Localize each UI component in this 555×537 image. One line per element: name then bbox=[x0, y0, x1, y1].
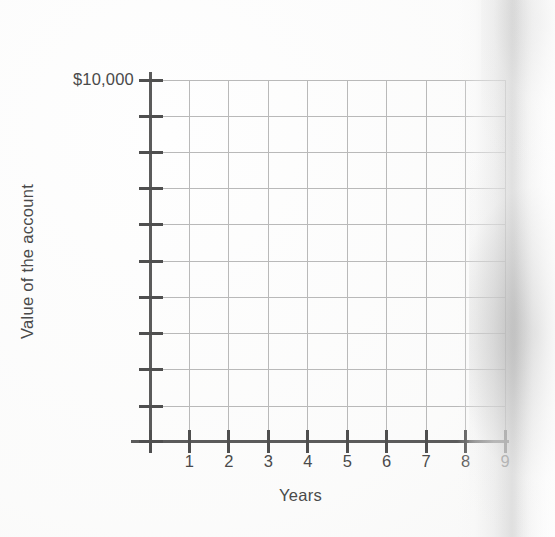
y-axis-tick bbox=[139, 296, 163, 299]
y-axis-baseline-tick bbox=[139, 440, 163, 443]
plot-grid-area bbox=[150, 80, 505, 441]
gridline-horizontal bbox=[150, 406, 505, 407]
x-axis-tick-label: 1 bbox=[177, 452, 201, 471]
x-axis-title: Years bbox=[0, 486, 555, 505]
x-axis-tick bbox=[306, 430, 309, 453]
y-axis-title: Value of the account bbox=[18, 147, 37, 377]
x-axis-tick bbox=[464, 430, 467, 453]
x-axis-tick bbox=[385, 430, 388, 453]
gridline-horizontal bbox=[150, 333, 505, 334]
gridline-horizontal bbox=[150, 261, 505, 262]
y-axis-tick bbox=[139, 260, 163, 263]
x-axis-tick bbox=[346, 430, 349, 453]
gridline-horizontal bbox=[150, 369, 505, 370]
x-axis-tick-label: 8 bbox=[454, 452, 478, 471]
gridline-horizontal bbox=[150, 188, 505, 189]
y-axis-tick bbox=[139, 79, 163, 82]
x-axis-title-text: Years bbox=[233, 486, 322, 504]
y-axis-tick bbox=[139, 223, 163, 226]
x-axis-tick bbox=[188, 430, 191, 453]
y-axis-tick bbox=[139, 368, 163, 371]
x-axis-tick-label: 7 bbox=[414, 452, 438, 471]
y-axis-tick bbox=[139, 115, 163, 118]
x-axis-tick-label: 9 bbox=[493, 452, 517, 471]
x-axis-tick bbox=[267, 430, 270, 453]
x-axis-tick bbox=[227, 430, 230, 453]
x-axis-tick-label: 4 bbox=[296, 452, 320, 471]
x-axis-tick-label: 2 bbox=[217, 452, 241, 471]
x-axis-tick-label: 3 bbox=[256, 452, 280, 471]
x-axis-tick-label: 6 bbox=[375, 452, 399, 471]
y-axis-tick bbox=[139, 405, 163, 408]
gridline-horizontal bbox=[150, 224, 505, 225]
y-axis-tick bbox=[139, 187, 163, 190]
y-axis-tick bbox=[139, 332, 163, 335]
y-axis-tick-label-top: $10,000 bbox=[52, 70, 134, 89]
x-axis-tick bbox=[425, 430, 428, 453]
graph-page: $10,000 123456789 Years Value of the acc… bbox=[0, 0, 555, 537]
gridline-horizontal bbox=[150, 152, 505, 153]
x-axis-tick bbox=[504, 430, 507, 453]
y-axis-tick bbox=[139, 151, 163, 154]
gridline-horizontal bbox=[150, 297, 505, 298]
coordinate-grid-chart: $10,000 123456789 Years Value of the acc… bbox=[0, 0, 555, 537]
gridline-horizontal bbox=[150, 80, 505, 81]
x-axis-tick-label: 5 bbox=[335, 452, 359, 471]
gridline-horizontal bbox=[150, 116, 505, 117]
